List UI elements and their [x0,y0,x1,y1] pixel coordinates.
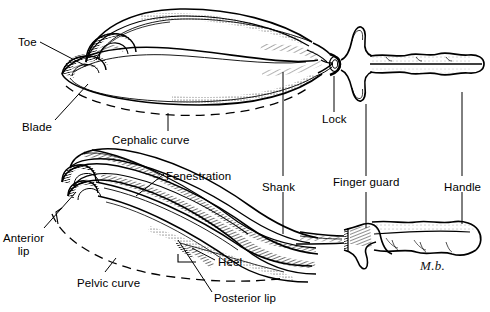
forceps-diagram-figure: Toe Blade Cephalic curve Lock Shank Fing… [0,0,490,312]
leader-toe [40,42,86,66]
label-handle: Handle [444,181,481,193]
label-finger-guard: Finger guard [333,176,399,188]
bracket-heel [178,254,196,262]
label-toe: Toe [18,36,37,48]
artist-signature: M.b. [420,258,445,274]
label-blade: Blade [22,121,52,133]
leader-lines [40,42,462,292]
label-lock: Lock [322,113,347,125]
upper-finger-guard [341,27,372,101]
lower-handle [372,221,481,255]
upper-handle [370,53,484,75]
lower-forceps-view [52,149,481,282]
label-pelvic-curve: Pelvic curve [77,277,140,289]
label-heel: Heel [218,256,242,268]
label-cephalic-curve: Cephalic curve [112,134,189,146]
upper-forceps-view [62,9,484,115]
leader-anterior-lip [44,192,76,228]
label-fenestration: Fenestration [166,170,231,182]
bracket-anterior-lip [56,208,62,224]
leader-pelvic-curve [105,258,116,272]
label-anterior-lip: Anteriorlip [3,232,44,258]
label-shank: Shank [262,181,295,193]
forceps-illustration [0,0,490,312]
upper-blade-far [86,9,312,62]
label-posterior-lip: Posterior lip [214,292,276,304]
